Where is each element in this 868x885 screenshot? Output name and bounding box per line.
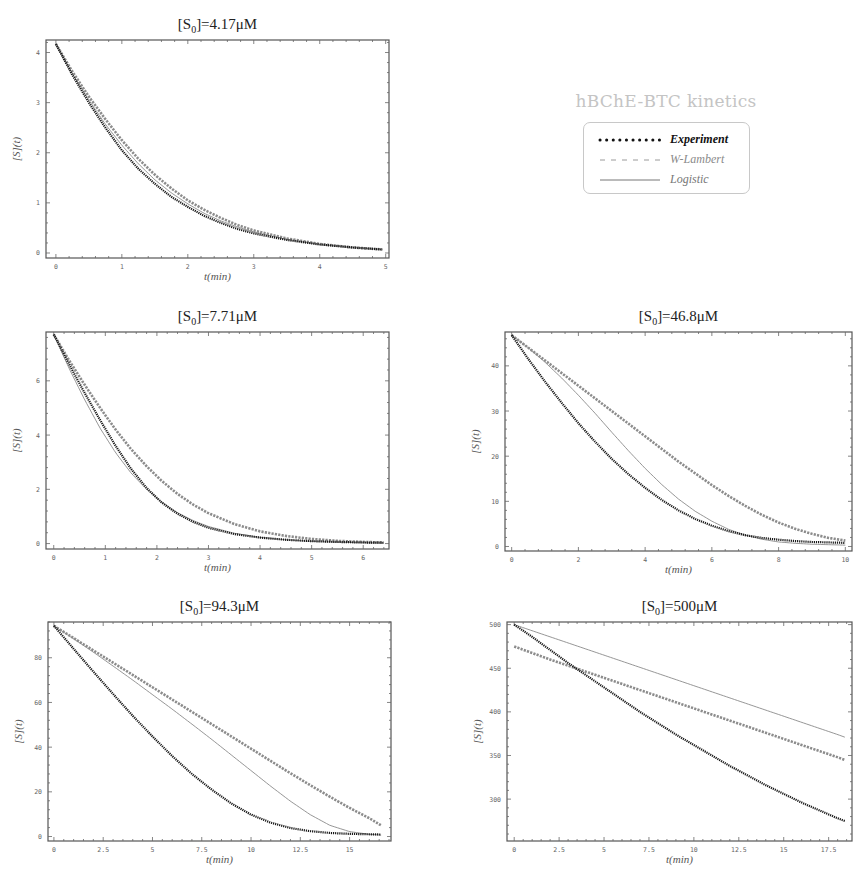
y-axis-label: [S](t) xyxy=(471,719,484,744)
x-tick-label: 3 xyxy=(252,263,256,271)
x-tick-label: 2 xyxy=(186,263,190,271)
y-tick-label: 40 xyxy=(491,362,499,370)
series-experiment xyxy=(514,625,845,821)
y-axis-label: [S](t) xyxy=(469,429,482,454)
x-tick-label: 4 xyxy=(258,554,262,562)
y-tick-label: 30 xyxy=(491,408,499,416)
y-tick-label: 4 xyxy=(36,432,40,440)
series-logistic xyxy=(56,44,383,249)
legend-item-experiment: Experiment xyxy=(584,131,749,151)
x-tick-label: 7.5 xyxy=(643,846,655,854)
y-tick-label: 3 xyxy=(36,99,40,107)
chart-title: [S0]=7.71μM xyxy=(46,308,389,327)
y-tick-label: 10 xyxy=(491,498,499,506)
plot-frame xyxy=(46,40,389,258)
x-axis-label: t(min) xyxy=(666,853,693,866)
series-logistic xyxy=(54,334,384,543)
legend-title: hBChE-BTC kinetics xyxy=(560,91,772,111)
x-axis-label: t(min) xyxy=(204,270,231,283)
legend-label: Experiment xyxy=(670,132,728,147)
x-tick-label: 1 xyxy=(120,263,124,271)
y-tick-label: 6 xyxy=(36,377,40,385)
x-tick-label: 2.5 xyxy=(553,846,565,854)
series-w-lambert xyxy=(54,334,384,542)
y-tick-label: 0 xyxy=(36,249,40,257)
chart-title: [S0]=500μM xyxy=(507,598,852,617)
series-w-lambert xyxy=(514,646,845,759)
x-tick-label: 5 xyxy=(384,263,388,271)
y-tick-label: 20 xyxy=(491,453,499,461)
series-experiment xyxy=(54,626,381,835)
x-tick-label: 7.5 xyxy=(196,846,208,854)
y-tick-label: 2 xyxy=(36,149,40,157)
series-w-lambert xyxy=(54,626,381,826)
legend-label: Logistic xyxy=(670,172,709,187)
x-tick-label: 12.5 xyxy=(292,846,308,854)
x-tick-label: 0 xyxy=(52,846,56,854)
x-tick-label: 0 xyxy=(52,554,56,562)
series-experiment xyxy=(512,335,846,543)
x-tick-label: 2.5 xyxy=(97,846,109,854)
y-tick-label: 40 xyxy=(34,744,42,752)
x-tick-label: 3 xyxy=(207,554,211,562)
x-tick-label: 10 xyxy=(690,846,698,854)
plot-frame xyxy=(507,622,852,841)
legend-label: W-Lambert xyxy=(670,152,724,167)
x-tick-label: 5 xyxy=(151,846,155,854)
series-w-lambert xyxy=(56,44,383,249)
y-tick-label: 20 xyxy=(34,788,42,796)
series-logistic xyxy=(512,335,846,545)
legend: Experiment W-Lambert Logistic xyxy=(583,122,750,194)
solid-line-icon xyxy=(598,175,662,185)
series-w-lambert xyxy=(512,335,846,540)
dotted-line-icon xyxy=(598,135,662,145)
x-tick-label: 2 xyxy=(576,556,580,564)
y-tick-label: 2 xyxy=(36,486,40,494)
y-tick-label: 0 xyxy=(38,833,42,841)
x-tick-label: 17.5 xyxy=(821,846,837,854)
y-tick-label: 500 xyxy=(489,621,501,629)
plot-frame xyxy=(505,332,852,551)
chart-title: [S0]=4.17μM xyxy=(46,16,389,35)
x-tick-label: 4 xyxy=(643,556,647,564)
x-tick-label: 0 xyxy=(54,263,58,271)
x-tick-label: 8 xyxy=(777,556,781,564)
x-tick-label: 4 xyxy=(318,263,322,271)
x-tick-label: 1 xyxy=(103,554,107,562)
series-experiment xyxy=(54,334,384,542)
y-tick-label: 0 xyxy=(495,543,499,551)
y-axis-label: [S](t) xyxy=(10,428,23,453)
chart-title: [S0]=46.8μM xyxy=(505,308,852,327)
chart-title: [S0]=94.3μM xyxy=(48,598,391,617)
x-tick-label: 5 xyxy=(602,846,606,854)
series-experiment xyxy=(56,44,383,249)
y-tick-label: 4 xyxy=(36,49,40,57)
x-tick-label: 10 xyxy=(841,556,849,564)
y-tick-label: 60 xyxy=(34,699,42,707)
x-tick-label: 2 xyxy=(155,554,159,562)
x-tick-label: 5 xyxy=(310,554,314,562)
series-logistic xyxy=(54,626,381,835)
x-tick-label: 0 xyxy=(512,846,516,854)
series-logistic xyxy=(514,625,845,738)
y-tick-label: 300 xyxy=(489,796,501,804)
x-tick-label: 15 xyxy=(346,846,354,854)
legend-item-w-lambert: W-Lambert xyxy=(584,151,749,171)
y-tick-label: 1 xyxy=(36,199,40,207)
x-tick-label: 12.5 xyxy=(731,846,747,854)
y-tick-label: 400 xyxy=(489,708,501,716)
x-tick-label: 10 xyxy=(247,846,255,854)
x-axis-label: t(min) xyxy=(204,561,231,574)
y-axis-label: [S](t) xyxy=(12,719,25,744)
x-axis-label: t(min) xyxy=(206,853,233,866)
legend-item-logistic: Logistic xyxy=(584,171,749,191)
y-tick-label: 450 xyxy=(489,665,501,673)
x-tick-label: 15 xyxy=(780,846,788,854)
y-tick-label: 350 xyxy=(489,752,501,760)
y-tick-label: 0 xyxy=(36,540,40,548)
plot-frame xyxy=(48,622,391,841)
x-axis-label: t(min) xyxy=(665,563,692,576)
y-tick-label: 80 xyxy=(34,654,42,662)
plot-frame xyxy=(46,332,389,549)
y-axis-label: [S](t) xyxy=(10,136,23,161)
